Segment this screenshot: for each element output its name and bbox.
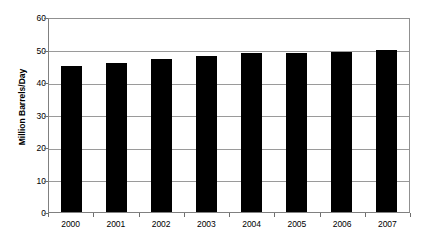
x-axis-tick-mark [139, 213, 140, 217]
x-axis-tick-mark [93, 213, 94, 217]
x-axis-tick-mark [229, 213, 230, 217]
y-axis-tick-label: 30 [22, 111, 46, 121]
bar-slot [319, 19, 364, 212]
bar-slot [184, 19, 229, 212]
y-axis-tick-label: 0 [22, 208, 46, 218]
x-axis-tick-mark [274, 213, 275, 217]
bar[interactable] [241, 53, 261, 212]
x-axis-tick-label: 2007 [365, 219, 410, 229]
bar-slot [49, 19, 94, 212]
x-axis-tick-label: 2003 [184, 219, 229, 229]
bar[interactable] [331, 52, 351, 212]
bar[interactable] [106, 63, 126, 212]
x-axis-tick-label: 2001 [93, 219, 138, 229]
x-axis-tick-mark [320, 213, 321, 217]
x-axis-tick-mark [410, 213, 411, 217]
x-axis-tick-mark [184, 213, 185, 217]
y-axis-tick-label: 50 [22, 46, 46, 56]
bar[interactable] [376, 50, 396, 213]
bar[interactable] [61, 66, 81, 212]
x-axis-tick-label: 2005 [274, 219, 319, 229]
bar-slot [274, 19, 319, 212]
y-axis-tick-label: 40 [22, 78, 46, 88]
y-axis-tick-label: 20 [22, 143, 46, 153]
x-axis-tick-mark [365, 213, 366, 217]
bar[interactable] [286, 53, 306, 212]
x-axis-tick-mark [48, 213, 49, 217]
bars-container [49, 19, 409, 212]
bar[interactable] [196, 56, 216, 212]
y-axis-tick-label: 60 [22, 13, 46, 23]
bar[interactable] [151, 59, 171, 212]
bar-chart: Million Barrels/Day 0102030405060 200020… [0, 0, 423, 243]
y-axis-tick-label: 10 [22, 176, 46, 186]
bar-slot [364, 19, 409, 212]
bar-slot [139, 19, 184, 212]
x-axis-tick-label: 2000 [48, 219, 93, 229]
x-axis-tick-label: 2004 [229, 219, 274, 229]
x-axis-tick-label: 2002 [139, 219, 184, 229]
plot-area [48, 18, 410, 213]
x-axis-tick-label: 2006 [320, 219, 365, 229]
bar-slot [229, 19, 274, 212]
bar-slot [94, 19, 139, 212]
x-axis-tick-labels: 20002001200220032004200520062007 [48, 219, 410, 229]
